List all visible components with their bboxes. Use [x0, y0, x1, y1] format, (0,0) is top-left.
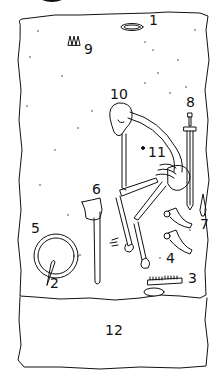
stirrups-4	[164, 208, 192, 254]
axe-6	[82, 198, 102, 284]
spearhead-7	[200, 194, 206, 216]
label-item-9: 9	[84, 42, 93, 56]
label-item-4: 4	[166, 251, 175, 265]
label-item-7: 7	[200, 217, 209, 231]
skull-10	[110, 103, 132, 136]
label-item-5: 5	[31, 221, 40, 235]
skeleton	[110, 103, 190, 268]
label-item-8: 8	[186, 95, 195, 109]
grave-plan-diagram: 1 9 10 8 11 6 5 7 4 3 2 12	[0, 0, 224, 381]
shield-5	[34, 234, 78, 278]
small-object-11	[142, 147, 145, 150]
sword-8	[184, 113, 196, 210]
arrowheads-9	[68, 36, 80, 45]
label-item-11: 11	[148, 145, 166, 159]
soil-speckles	[26, 29, 195, 258]
comb-3	[144, 276, 182, 296]
label-item-10: 10	[110, 87, 128, 101]
label-item-1: 1	[149, 13, 158, 27]
label-item-3: 3	[188, 271, 197, 285]
label-item-2: 2	[50, 276, 59, 290]
top-cutoff-shape	[42, 0, 62, 2]
label-item-12: 12	[105, 323, 123, 337]
label-item-6: 6	[92, 182, 101, 196]
